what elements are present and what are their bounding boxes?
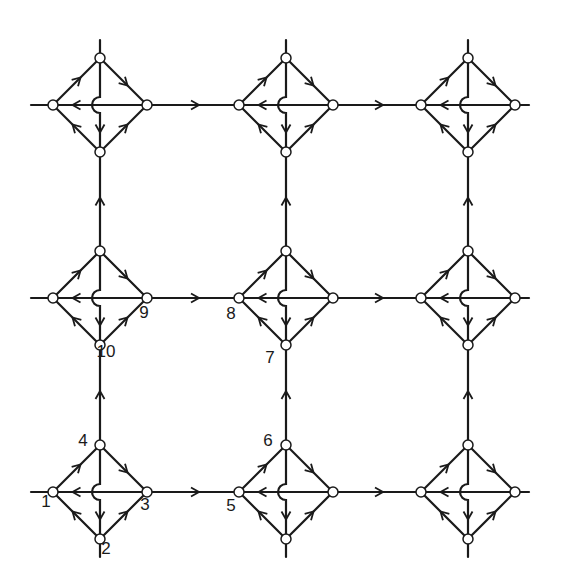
node — [328, 293, 338, 303]
node-label: 4 — [78, 431, 87, 450]
edge-bottom-left — [53, 298, 100, 345]
edge-bottom-right — [286, 298, 333, 345]
node-label: 1 — [41, 492, 50, 511]
edge-bottom-left — [53, 492, 100, 539]
edge-top-right — [286, 251, 333, 298]
edge-bottom-right — [468, 492, 515, 539]
edge-bottom-left — [239, 492, 286, 539]
node — [142, 100, 152, 110]
node — [416, 293, 426, 303]
edge-left-top — [421, 251, 468, 298]
node-label: 10 — [97, 342, 116, 361]
node — [142, 293, 152, 303]
edge-bottom-left — [421, 492, 468, 539]
node — [416, 487, 426, 497]
node-label: 7 — [265, 348, 274, 367]
edge-top-right — [100, 58, 147, 105]
edge-left-top — [239, 445, 286, 492]
edge-bottom-right — [286, 105, 333, 152]
edge-left-top — [53, 445, 100, 492]
node — [510, 293, 520, 303]
node — [95, 147, 105, 157]
node — [95, 246, 105, 256]
edge-top-right — [468, 58, 515, 105]
edge-left-top — [53, 251, 100, 298]
node — [281, 53, 291, 63]
node — [281, 147, 291, 157]
node-label: 5 — [226, 496, 235, 515]
node — [95, 440, 105, 450]
node — [416, 100, 426, 110]
node — [281, 534, 291, 544]
edge-left-top — [421, 58, 468, 105]
node — [510, 100, 520, 110]
edge-top-right — [100, 251, 147, 298]
edge-left-top — [239, 251, 286, 298]
edge-top-right — [286, 445, 333, 492]
edge-left-top — [421, 445, 468, 492]
node — [234, 100, 244, 110]
node — [95, 53, 105, 63]
node — [510, 487, 520, 497]
edge-left-top — [53, 58, 100, 105]
edge-left-top — [239, 58, 286, 105]
node — [281, 246, 291, 256]
edge-bottom-right — [468, 298, 515, 345]
edge-top-right — [100, 445, 147, 492]
node — [463, 340, 473, 350]
edge-bottom-right — [286, 492, 333, 539]
edge-top-right — [468, 445, 515, 492]
node-label: 3 — [140, 495, 149, 514]
node-label: 6 — [263, 431, 272, 450]
node — [463, 246, 473, 256]
node-label: 9 — [139, 303, 148, 322]
edge-bottom-left — [53, 105, 100, 152]
node — [463, 53, 473, 63]
node — [234, 293, 244, 303]
node — [463, 147, 473, 157]
node-label: 2 — [101, 539, 110, 558]
node-label: 8 — [226, 304, 235, 323]
edge-top-right — [468, 251, 515, 298]
node — [463, 534, 473, 544]
edge-bottom-left — [421, 105, 468, 152]
edge-bottom-left — [239, 298, 286, 345]
traffic-network-diagram: 12345678910 — [0, 0, 567, 588]
node — [48, 100, 58, 110]
node — [281, 440, 291, 450]
edge-bottom-right — [468, 105, 515, 152]
node — [328, 100, 338, 110]
node — [48, 293, 58, 303]
edge-bottom-left — [239, 105, 286, 152]
node — [463, 440, 473, 450]
edge-bottom-right — [100, 105, 147, 152]
node — [328, 487, 338, 497]
node — [281, 340, 291, 350]
edge-top-right — [286, 58, 333, 105]
edge-bottom-left — [421, 298, 468, 345]
